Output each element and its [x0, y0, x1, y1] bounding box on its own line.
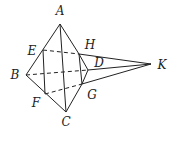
label-K: K	[157, 58, 168, 72]
dashed-FG	[45, 84, 82, 94]
dashed-EH	[43, 50, 79, 54]
label-B: B	[10, 68, 20, 82]
label-H: H	[84, 38, 96, 52]
label-E: E	[27, 44, 37, 58]
edge-DG	[82, 70, 88, 84]
edge-AC	[60, 24, 66, 112]
label-D: D	[93, 56, 104, 70]
label-A: A	[55, 4, 65, 18]
edge-HK	[79, 54, 151, 64]
dashed-BD	[26, 70, 88, 75]
label-F: F	[31, 96, 41, 110]
edge-CG	[66, 84, 82, 112]
label-G: G	[87, 88, 97, 102]
label-C: C	[61, 115, 70, 129]
edge-EF	[43, 50, 45, 94]
geometry-diagram: A B C D E F G H K	[0, 0, 178, 142]
edge-AH	[60, 24, 79, 54]
